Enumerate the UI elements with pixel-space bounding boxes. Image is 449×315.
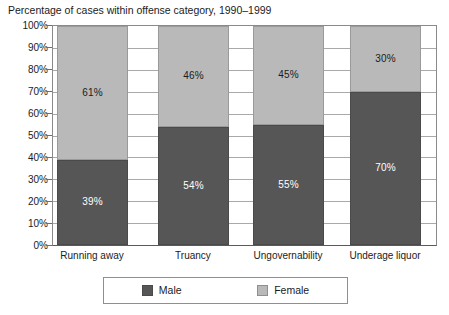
legend-label-male: Male bbox=[159, 285, 182, 296]
y-tick-label-100: 100% bbox=[4, 21, 48, 31]
legend-label-female: Female bbox=[274, 285, 309, 296]
chart-title: Percentage of cases within offense categ… bbox=[8, 4, 271, 17]
bar-label-male-ungovernability: 55% bbox=[278, 180, 299, 190]
bar-label-female-truancy: 46% bbox=[183, 71, 204, 81]
female-swatch-icon bbox=[257, 285, 268, 296]
bar-label-male-running-away: 39% bbox=[82, 197, 103, 207]
bar-label-male-underage-liquor: 70% bbox=[375, 163, 396, 173]
male-swatch-icon bbox=[142, 285, 153, 296]
legend-item-male[interactable]: Male bbox=[142, 285, 182, 296]
bar-segment-female-underage-liquor[interactable]: 30% bbox=[350, 26, 421, 92]
legend-item-female[interactable]: Female bbox=[257, 285, 309, 296]
bar-segment-female-truancy[interactable]: 46% bbox=[158, 26, 229, 127]
y-tick-label-20: 20% bbox=[4, 197, 48, 207]
y-tick-label-10: 10% bbox=[4, 219, 48, 229]
bar-segment-male-truancy[interactable]: 54% bbox=[158, 127, 229, 245]
y-tick-label-30: 30% bbox=[4, 175, 48, 185]
plot-area: 39% 61% 54% 46% 55% 45% 70% 30% bbox=[52, 25, 437, 246]
bar-segment-male-underage-liquor[interactable]: 70% bbox=[350, 92, 421, 245]
bar-group-running-away[interactable]: 39% 61% bbox=[57, 26, 128, 245]
y-tick-label-60: 60% bbox=[4, 109, 48, 119]
bar-label-female-running-away: 61% bbox=[82, 88, 103, 98]
bar-label-male-truancy: 54% bbox=[183, 181, 204, 191]
bar-group-ungovernability[interactable]: 55% 45% bbox=[253, 26, 324, 245]
y-tick-label-70: 70% bbox=[4, 87, 48, 97]
bar-group-underage-liquor[interactable]: 70% 30% bbox=[350, 26, 421, 245]
bar-label-female-underage-liquor: 30% bbox=[375, 54, 396, 64]
x-tick-label-underage-liquor: Underage liquor bbox=[325, 250, 445, 262]
bar-label-female-ungovernability: 45% bbox=[278, 70, 299, 80]
bar-segment-female-ungovernability[interactable]: 45% bbox=[253, 26, 324, 125]
bar-group-truancy[interactable]: 54% 46% bbox=[158, 26, 229, 245]
y-tick-label-80: 80% bbox=[4, 65, 48, 75]
y-tick-label-40: 40% bbox=[4, 153, 48, 163]
bar-segment-male-running-away[interactable]: 39% bbox=[57, 160, 128, 245]
y-tick-label-50: 50% bbox=[4, 131, 48, 141]
bar-segment-male-ungovernability[interactable]: 55% bbox=[253, 125, 324, 245]
bar-segment-female-running-away[interactable]: 61% bbox=[57, 26, 128, 160]
y-tick-label-90: 90% bbox=[4, 43, 48, 53]
chart-legend: Male Female bbox=[103, 277, 348, 304]
